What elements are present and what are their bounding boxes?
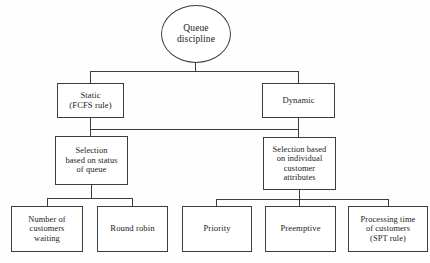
node-processing-time-of-customers: Processing time of customers (SPT rule) [348, 206, 428, 252]
edge-level4-left-bus [47, 198, 133, 199]
node-preemptive: Preemptive [265, 206, 336, 252]
node-static-label: Static (FCFS rule) [67, 91, 113, 110]
edge-level3-drop-right [298, 129, 299, 137]
node-priority-label: Priority [201, 224, 232, 234]
node-round-robin: Round robin [97, 206, 168, 252]
edge-level2-drop-dynamic [298, 71, 299, 83]
node-processing-time-of-customers-label: Processing time of customers (SPT rule) [359, 215, 418, 243]
edge-level3-bus [90, 129, 299, 130]
node-number-of-customers-waiting-label: Number of customers waiting [26, 215, 67, 243]
node-selection-status-queue: Selection based on status of queue [55, 136, 128, 185]
edge-selection-attributes-stem [299, 190, 300, 199]
node-selection-customer-attributes: Selection based on individual customer a… [263, 137, 336, 190]
node-selection-customer-attributes-label: Selection based on individual customer a… [271, 145, 329, 183]
edge-level4-drop-round-robin [132, 198, 133, 206]
node-priority: Priority [182, 206, 252, 252]
edge-dynamic-stem [298, 118, 299, 129]
node-round-robin-label: Round robin [108, 224, 156, 234]
node-static: Static (FCFS rule) [57, 83, 124, 118]
queue-discipline-diagram: Queue discipline Static (FCFS rule) Dyna… [0, 0, 430, 263]
node-number-of-customers-waiting: Number of customers waiting [11, 206, 83, 252]
edge-level4-drop-preemptive [299, 199, 300, 206]
node-queue-discipline-label: Queue discipline [175, 23, 217, 44]
node-preemptive-label: Preemptive [278, 224, 322, 234]
node-dynamic-label: Dynamic [280, 96, 316, 106]
edge-level2-drop-static [90, 71, 91, 83]
edge-selection-status-stem [91, 185, 92, 198]
node-dynamic: Dynamic [262, 83, 335, 118]
node-queue-discipline: Queue discipline [161, 5, 231, 63]
edge-level4-right-bus [216, 199, 389, 200]
edge-level4-drop-priority [216, 199, 217, 206]
edge-level4-drop-processing-time [388, 199, 389, 206]
node-selection-status-queue-label: Selection based on status of queue [63, 146, 119, 174]
edge-static-stem [90, 118, 91, 129]
edge-level4-drop-number-waiting [47, 198, 48, 206]
edge-level2-bus [90, 71, 299, 72]
